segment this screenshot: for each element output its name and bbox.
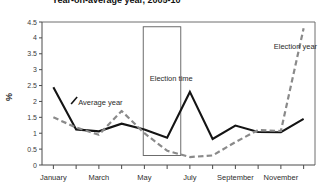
y-tick-label: 2.5 — [27, 82, 37, 89]
annotations: Average yearElection timeElection year — [71, 42, 318, 107]
chart-title: Year-on-average year, 2005-10 — [52, 0, 181, 5]
x-axis-ticks: JanuaryMarchMayJulySeptemberNovember — [40, 165, 304, 182]
annotation-average-year: Average year — [78, 98, 123, 107]
y-axis-title: % — [4, 93, 14, 101]
annotation-election-time: Election time — [150, 74, 193, 83]
x-tick-label: May — [137, 173, 151, 182]
chart-container: Year-on-average year, 2005-10 % 00.511.5… — [0, 0, 324, 188]
y-tick-label: 0.5 — [27, 146, 37, 153]
y-tick-label: 3.5 — [27, 50, 37, 57]
series-lines — [53, 28, 303, 157]
y-tick-label: 3 — [33, 66, 37, 73]
pointer-line — [71, 97, 77, 104]
series-dashed — [53, 28, 303, 157]
x-tick-label: January — [40, 173, 67, 182]
y-tick-label: 2 — [33, 98, 37, 105]
y-tick-label: 0 — [33, 162, 37, 169]
x-tick-label: November — [264, 173, 299, 182]
x-tick-label: March — [88, 173, 109, 182]
x-tick-label: September — [217, 173, 254, 182]
y-tick-label: 1.5 — [27, 114, 37, 121]
y-tick-label: 4 — [33, 34, 37, 41]
y-axis-ticks: 00.511.522.533.544.5 — [27, 19, 42, 169]
y-tick-label: 1 — [33, 130, 37, 137]
line-chart: Year-on-average year, 2005-10 % 00.511.5… — [0, 0, 324, 188]
y-tick-label: 4.5 — [27, 19, 37, 26]
annotation-election-year: Election year — [274, 42, 318, 51]
x-tick-label: July — [183, 173, 197, 182]
